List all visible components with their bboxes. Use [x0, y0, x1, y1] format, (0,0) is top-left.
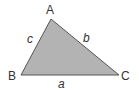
vertex-label-a: A — [46, 3, 54, 17]
side-label-b: b — [83, 31, 90, 45]
triangle-shape — [21, 19, 119, 75]
vertex-label-c: C — [121, 69, 130, 83]
side-label-c: c — [27, 32, 33, 46]
triangle-diagram: A B C c b a — [0, 0, 139, 90]
vertex-label-b: B — [8, 69, 16, 83]
side-label-a: a — [58, 77, 65, 90]
